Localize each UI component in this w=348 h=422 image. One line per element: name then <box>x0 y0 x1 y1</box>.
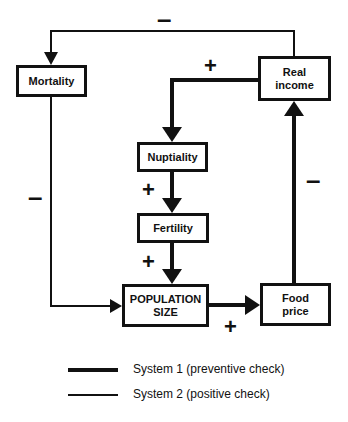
node-fertility: Fertility <box>137 213 209 243</box>
node-label: Nuptiality <box>147 151 197 164</box>
node-mortality: Mortality <box>16 65 87 97</box>
edge-nuptiality-to-fertility <box>162 172 182 213</box>
node-label: Fertility <box>153 222 193 235</box>
node-label: Food price <box>282 292 309 318</box>
node-nuptiality: Nuptiality <box>137 142 208 172</box>
legend-item-system2: System 2 (positive check) <box>68 387 270 401</box>
node-label: Real income <box>275 66 314 92</box>
edge-fertility-to-population <box>162 243 182 284</box>
sign-left-minus: – <box>28 182 42 213</box>
sign-fertility-population-plus: + <box>142 249 155 275</box>
node-label: POPULATION SIZE <box>130 293 201 319</box>
legend-label: System 1 (preventive check) <box>133 362 284 376</box>
sign-top-minus: – <box>157 4 171 35</box>
node-population-size: POPULATION SIZE <box>122 284 209 327</box>
sign-income-nuptiality-plus: + <box>204 53 217 79</box>
legend-item-system1: System 1 (preventive check) <box>68 362 284 376</box>
edge-food-to-income <box>284 101 304 283</box>
node-real-income: Real income <box>258 56 331 101</box>
edge-income-to-nuptiality <box>162 80 258 142</box>
sign-nuptiality-fertility-plus: + <box>142 177 155 203</box>
sign-right-minus: – <box>306 165 320 196</box>
edge-income-to-mortality <box>44 31 294 65</box>
edge-mortality-to-population <box>51 97 122 313</box>
node-label: Mortality <box>29 75 75 88</box>
sign-population-food-plus: + <box>224 314 237 340</box>
node-food-price: Food price <box>260 283 331 326</box>
edge-population-to-food <box>209 295 260 315</box>
legend-label: System 2 (positive check) <box>133 387 270 401</box>
